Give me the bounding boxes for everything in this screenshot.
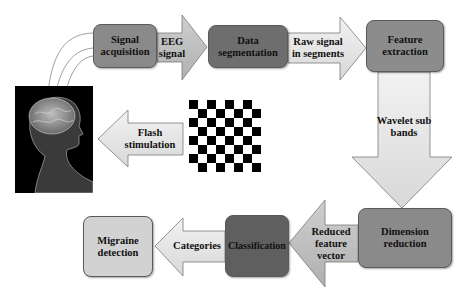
- head-silhouette-icon: [15, 86, 93, 193]
- migraine-detection-box: Migraine detection: [83, 216, 153, 277]
- eeg-signal-label: EEG signal: [158, 33, 186, 62]
- flash-stimulation-label: Flash stimulation: [118, 124, 182, 154]
- dimension-reduction-label: Dimension reduction: [359, 226, 451, 250]
- migraine-detection-label: Migraine detection: [84, 235, 152, 259]
- signal-acquisition-box: Signal acquisition: [93, 24, 157, 68]
- checkerboard-stimulus: [189, 100, 261, 172]
- diagram-canvas: Signal acquisition Data segmentation Fea…: [0, 0, 466, 299]
- data-segmentation-box: Data segmentation: [208, 25, 288, 68]
- head-brain-image: [15, 86, 93, 193]
- dimension-reduction-box: Dimension reduction: [358, 208, 452, 268]
- data-segmentation-label: Data segmentation: [209, 35, 287, 59]
- reduced-feature-vector-label: Reduced feature vector: [306, 224, 356, 264]
- raw-signal-label: Raw signal in segments: [288, 33, 348, 63]
- wavelet-sub-bands-label: Wavelet sub bands: [376, 112, 432, 142]
- classification-box: Classification: [225, 215, 289, 277]
- categories-label: Categories: [168, 234, 226, 258]
- feature-extraction-label: Feature extraction: [367, 34, 443, 58]
- classification-label: Classification: [228, 240, 286, 252]
- signal-acquisition-label: Signal acquisition: [94, 34, 156, 58]
- feature-extraction-box: Feature extraction: [366, 20, 444, 72]
